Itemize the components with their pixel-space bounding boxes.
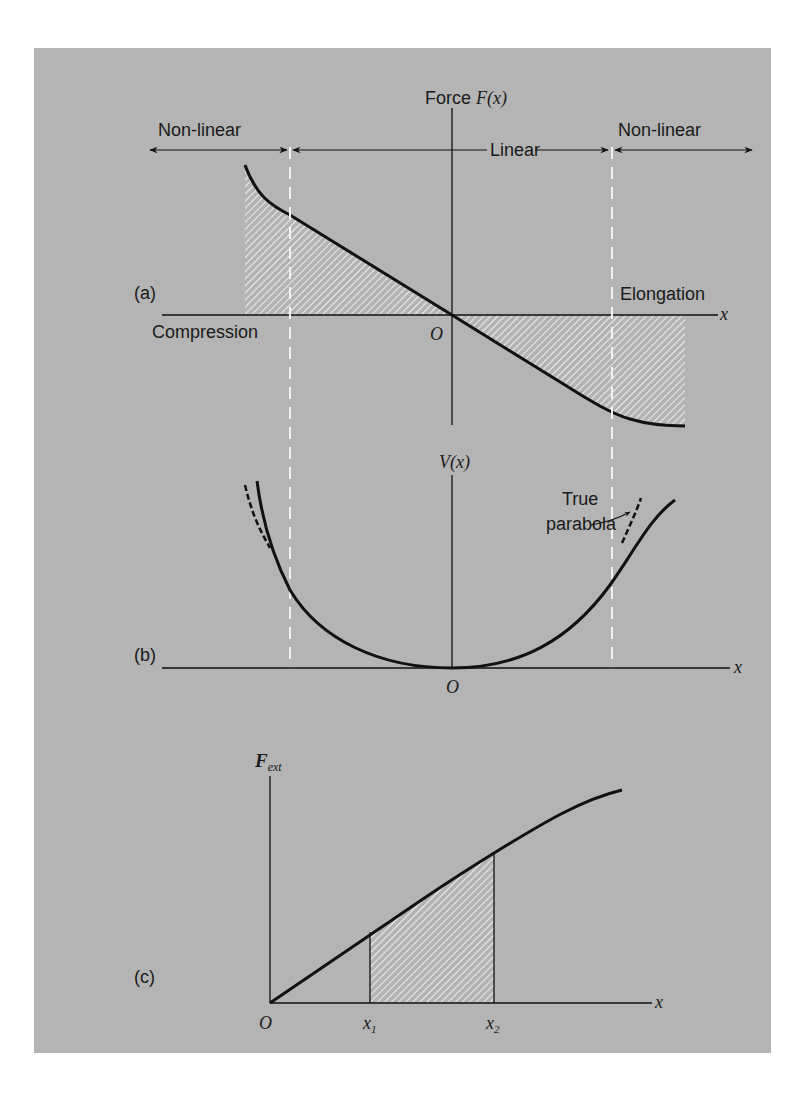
potential-axis-label: V(x) — [439, 452, 470, 473]
elongation-label: Elongation — [620, 284, 705, 304]
figure-svg: (a) Force F(x) Non-linear Linear Non-lin… — [0, 0, 809, 1097]
c-x-axis-label: x — [654, 992, 663, 1012]
a-x-axis-label: x — [719, 304, 728, 324]
compression-label: Compression — [152, 322, 258, 342]
x1-label: x1 — [362, 1013, 377, 1035]
panel-a: (a) Force F(x) Non-linear Linear Non-lin… — [134, 88, 752, 426]
force-axis-label: Force F(x) — [425, 88, 507, 109]
fext-axis-label: Fext — [254, 750, 282, 774]
nonlinear-right-label: Non-linear — [618, 120, 701, 140]
nonlinear-left-label: Non-linear — [158, 120, 241, 140]
parabola-label: parabola — [546, 514, 617, 534]
panel-b-label: (b) — [134, 645, 156, 665]
x2-label: x2 — [485, 1013, 500, 1035]
b-origin-label: O — [446, 677, 459, 697]
panel-b: (b) V(x) True parabola O x — [134, 452, 742, 697]
panel-c-label: (c) — [134, 967, 155, 987]
c-origin-label: O — [259, 1013, 272, 1033]
b-x-axis-label: x — [733, 657, 742, 677]
true-parabola-right — [622, 498, 641, 543]
a-origin-label: O — [430, 324, 443, 344]
panel-c: (c) Fext O x1 x2 x — [134, 750, 663, 1035]
panel-a-label: (a) — [134, 283, 156, 303]
linear-label: Linear — [490, 140, 540, 160]
work-hatched-area — [370, 853, 494, 1003]
hatched-area-elongation — [452, 315, 685, 425]
hatched-area-compression — [245, 165, 452, 315]
true-label: True — [562, 489, 598, 509]
